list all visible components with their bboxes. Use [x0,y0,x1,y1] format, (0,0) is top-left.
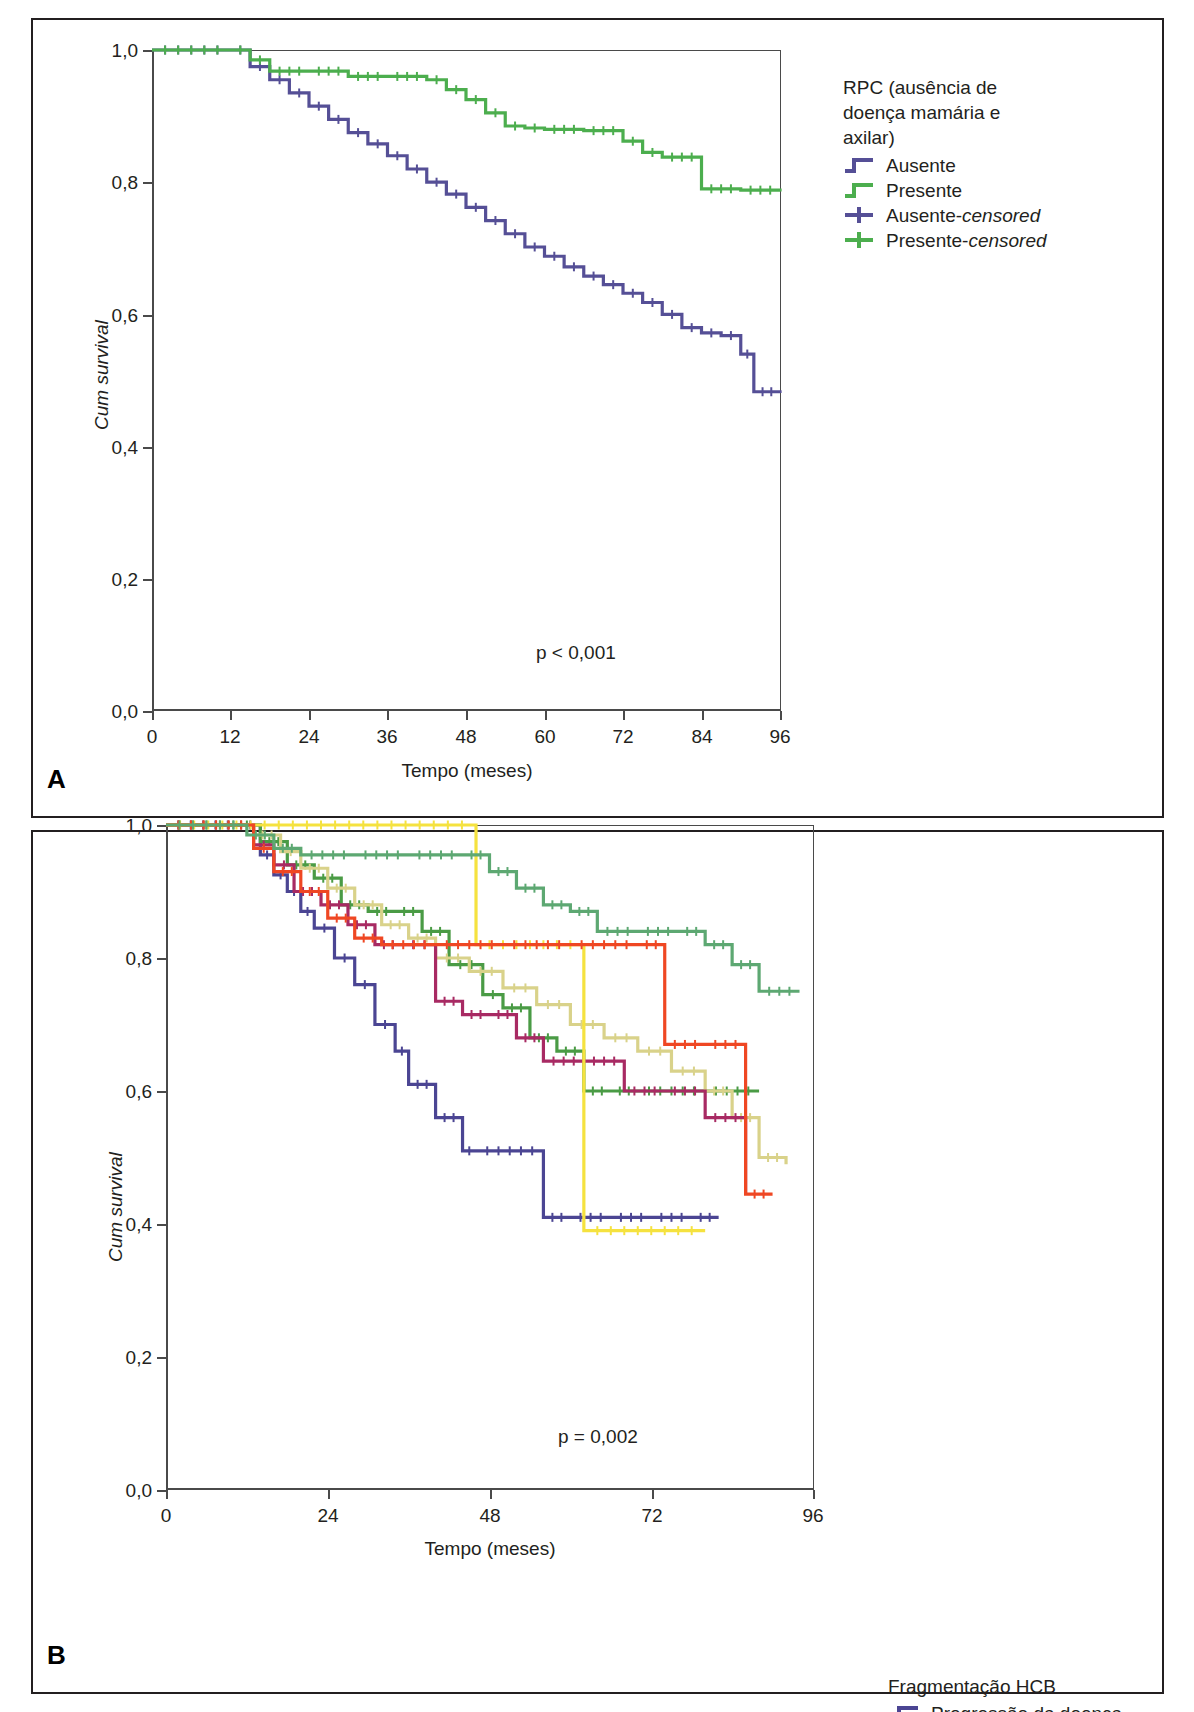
panel-a-xtick-72: 72 [603,726,643,748]
panel-b-xtick-24: 24 [308,1505,348,1527]
step-line-icon [843,179,879,201]
censored-cross-icon [843,229,879,251]
panel-a-legend-title: RPC (ausência de doença mamária e axilar… [843,75,1053,150]
curve-1 [152,50,780,191]
panel-a-legend-label-2: Ausente-censored [886,203,1040,228]
panel-a-legend: RPC (ausência de doença mamária e axilar… [843,75,1053,253]
panel-a-xtick-96: 96 [760,726,800,748]
panel-b-legend-item-0[interactable]: Progressão da doença [888,1701,1162,1712]
panel-b-xtick-0: 0 [146,1505,186,1527]
panel-a-legend-label-1: Presente [886,178,962,203]
panel-a-legend-item-3[interactable]: Presente-censored [843,228,1053,253]
censored-marks-3 [179,821,736,1123]
curve-3 [166,825,746,1194]
curve-4 [166,825,705,1231]
panel-b-pvalue: p = 0,002 [558,1426,638,1448]
panel-a-legend-label-0: Ausente [886,153,956,178]
panel-a-xtick-60: 60 [525,726,565,748]
panel-b-legend-title: Fragmentação HCB [888,1676,1162,1698]
panel-b: B Cum survival 1,0 0,8 0,6 0,4 0,2 0,0 0… [31,830,1164,1694]
censored-cross-icon [843,204,879,226]
panel-a-legend-label-3: Presente-censored [886,228,1047,253]
figure-page: A Cum survival 1,0 0,8 0,6 0,4 0,2 0,0 0… [0,0,1194,1712]
panel-a-xtick-84: 84 [682,726,722,748]
panel-a-xtick-12: 12 [210,726,250,748]
step-line-icon [843,154,879,176]
censored-marks-5 [179,821,764,1199]
panel-a-x-axis-label: Tempo (meses) [352,760,582,782]
panel-a-legend-item-1[interactable]: Presente [843,178,1053,203]
panel-a-xtick-24: 24 [289,726,329,748]
censored-marks-4 [180,821,692,1236]
panel-b-legend: Fragmentação HCB Progressão da doençaDoe… [888,1676,1162,1712]
panel-a-legend-item-0[interactable]: Ausente [843,153,1053,178]
panel-a-legend-item-2[interactable]: Ausente-censored [843,203,1053,228]
curve-0 [152,50,780,393]
panel-b-xtick-96: 96 [793,1505,833,1527]
step-line-icon [888,1702,924,1712]
panel-a-pvalue: p < 0,001 [536,642,616,664]
panel-a-xtick-36: 36 [367,726,407,748]
curve-0 [166,825,719,1217]
panel-b-xtick-48: 48 [470,1505,510,1527]
panel-a: A Cum survival 1,0 0,8 0,6 0,4 0,2 0,0 0… [31,18,1164,818]
censored-marks-2 [179,821,778,1163]
panel-b-x-axis-label: Tempo (meses) [375,1538,605,1560]
panel-b-curves [33,832,1166,1696]
panel-b-legend-label-0: Progressão da doença [931,1701,1122,1712]
panel-a-xtick-48: 48 [446,726,486,748]
panel-a-xtick-0: 0 [132,726,172,748]
censored-marks-0 [178,821,709,1222]
curve-5 [166,825,773,1194]
panel-b-xtick-72: 72 [632,1505,672,1527]
